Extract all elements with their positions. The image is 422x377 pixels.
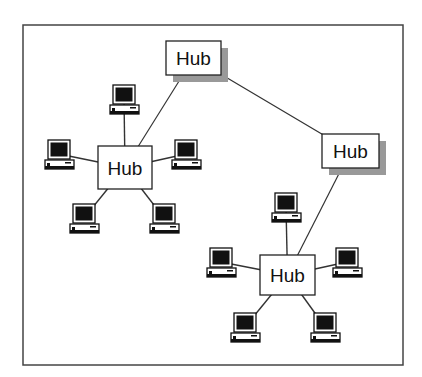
computer-icon	[110, 85, 139, 114]
computer-icon	[272, 193, 301, 222]
hub-label: Hub	[270, 265, 305, 286]
computer-icon	[333, 248, 362, 277]
computer-icon	[150, 204, 179, 233]
hub-bottom: Hub	[260, 255, 315, 295]
hub-label: Hub	[176, 48, 211, 69]
hub-label: Hub	[333, 141, 368, 162]
computer-icon	[45, 140, 74, 169]
computer-icon	[70, 204, 99, 233]
hub-left: Hub	[98, 146, 152, 189]
hub-right: Hub	[322, 134, 386, 175]
computer-icon	[207, 248, 236, 277]
computer-icon	[311, 313, 340, 342]
hub-label: Hub	[108, 158, 143, 179]
computer-icon	[231, 313, 260, 342]
hub-top: Hub	[166, 41, 228, 82]
computer-icon	[172, 140, 201, 169]
network-diagram: HubHubHubHub	[0, 0, 422, 377]
